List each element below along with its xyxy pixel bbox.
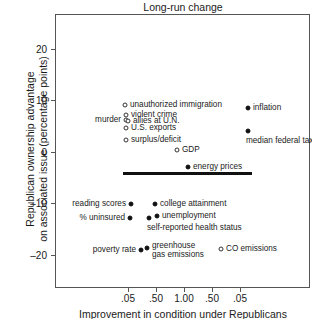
x-tick-mark	[128, 288, 129, 292]
chart-title: Long-run change	[55, 0, 311, 14]
y-tick-label: –20	[30, 250, 47, 261]
data-point-label: college attainment	[160, 200, 226, 209]
data-point[interactable]	[246, 106, 251, 111]
y-tick-marks	[51, 0, 55, 319]
data-point[interactable]	[145, 246, 150, 251]
data-point-label: self-reported health status	[147, 224, 242, 233]
data-point[interactable]	[155, 214, 160, 219]
data-point-label: unemployment	[162, 212, 216, 221]
data-point-label: median federal tax rate	[246, 137, 312, 146]
chart-figure: Long-run change Republican ownership adv…	[0, 0, 312, 319]
data-point[interactable]	[129, 202, 134, 207]
data-point-label: % uninsured	[79, 214, 125, 223]
data-point[interactable]	[123, 103, 128, 108]
data-point-label: unauthorized immigration	[130, 101, 222, 110]
x-tick-mark	[156, 288, 157, 292]
x-tick-mark	[212, 288, 213, 292]
data-point[interactable]	[246, 129, 251, 134]
y-tick-label: 20	[36, 44, 47, 55]
data-point-label: poverty rate	[93, 246, 136, 255]
data-point-label: greenhouse gas emissions	[152, 242, 204, 259]
y-tick-label: –10	[30, 198, 47, 209]
data-point[interactable]	[126, 119, 131, 124]
data-point-label: energy prices	[193, 163, 242, 172]
y-tick-mark	[51, 152, 55, 153]
y-tick-label: 10	[36, 95, 47, 106]
data-point[interactable]	[175, 148, 180, 153]
data-point[interactable]	[139, 248, 144, 253]
x-axis-label: Improvement in condition under Republica…	[55, 308, 311, 319]
x-tick-marks	[0, 288, 312, 292]
y-tick-mark	[51, 203, 55, 204]
data-point-label: GDP	[182, 146, 200, 155]
x-tick-label: .05	[233, 293, 247, 304]
data-point[interactable]	[124, 138, 129, 143]
data-point[interactable]	[186, 165, 191, 170]
x-tick-mark	[184, 288, 185, 292]
data-point[interactable]	[128, 216, 133, 221]
data-point-label: reading scores	[72, 200, 126, 209]
x-tick-label: .05	[121, 293, 135, 304]
data-point-label: inflation	[253, 104, 281, 113]
x-tick-label: .50	[149, 293, 163, 304]
data-point[interactable]	[124, 126, 129, 131]
data-point-label: CO emissions	[226, 245, 277, 254]
data-point-label: U.S. exports	[131, 124, 176, 133]
y-tick-label: 0	[41, 147, 47, 158]
energy-prices-range-bar	[123, 172, 252, 175]
data-point[interactable]	[147, 216, 152, 221]
data-point[interactable]	[219, 247, 224, 252]
data-point[interactable]	[153, 202, 158, 207]
x-tick-label: .50	[205, 293, 219, 304]
y-tick-mark	[51, 49, 55, 50]
x-tick-mark	[240, 288, 241, 292]
data-point-label: surplus/deficit	[131, 136, 181, 145]
y-tick-mark	[51, 255, 55, 256]
data-point-label: murder	[95, 116, 121, 125]
y-tick-mark	[51, 100, 55, 101]
x-tick-label: 1.00	[174, 293, 193, 304]
